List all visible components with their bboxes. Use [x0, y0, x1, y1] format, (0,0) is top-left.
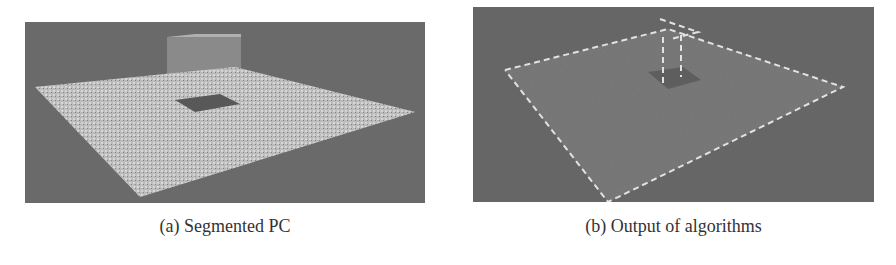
subfigure-a-image [25, 22, 425, 203]
algorithm-output-render [473, 7, 874, 202]
subfigure-b-image [473, 7, 874, 202]
segmented-point-cloud-render [25, 22, 425, 203]
subfigure-b-caption: (b) Output of algorithms [473, 216, 874, 237]
subfigure-a-caption: (a) Segmented PC [25, 216, 425, 237]
